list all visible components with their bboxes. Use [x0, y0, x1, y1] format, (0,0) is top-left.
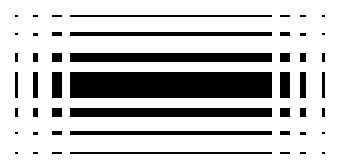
pattern-mark-r4-c1	[15, 72, 18, 98]
pattern-mark-r1-c2	[33, 15, 38, 17]
pattern-mark-r2-c7	[322, 33, 325, 35]
pattern-mark-r1-c3	[52, 15, 62, 17]
pattern-mark-r2-c1	[15, 33, 18, 35]
pattern-mark-r7-c3	[52, 152, 62, 154]
pattern-mark-r7-c4	[70, 152, 272, 154]
pattern-mark-r6-c5	[280, 131, 290, 135]
pattern-mark-r5-c2	[33, 108, 38, 117]
pattern-mark-r4-c5	[280, 72, 290, 98]
pattern-mark-r6-c3	[52, 131, 62, 135]
pattern-mark-r7-c6	[300, 152, 306, 154]
pattern-mark-r7-c1	[15, 152, 18, 154]
pattern-mark-r1-c7	[322, 15, 325, 17]
pattern-mark-r3-c3	[52, 53, 62, 62]
pattern-mark-r6-c1	[15, 132, 18, 134]
pattern-mark-r4-c4	[70, 72, 272, 98]
pattern-mark-r7-c2	[33, 152, 38, 154]
pattern-mark-r2-c5	[280, 32, 290, 36]
pattern-mark-r3-c4	[70, 53, 272, 62]
pattern-canvas	[0, 0, 349, 168]
pattern-mark-r2-c4	[70, 32, 272, 36]
pattern-mark-r3-c1	[15, 53, 18, 62]
pattern-mark-r6-c6	[300, 132, 306, 135]
pattern-mark-r7-c5	[280, 152, 290, 154]
pattern-mark-r1-c6	[300, 15, 306, 17]
pattern-mark-r4-c6	[300, 72, 306, 98]
pattern-mark-r1-c1	[15, 15, 18, 17]
pattern-mark-r5-c1	[15, 108, 18, 117]
pattern-mark-r5-c3	[52, 108, 62, 117]
pattern-mark-r4-c3	[52, 72, 62, 98]
pattern-mark-r5-c7	[322, 108, 325, 117]
pattern-mark-r5-c5	[280, 108, 290, 117]
pattern-mark-r5-c4	[70, 108, 272, 117]
pattern-mark-r1-c4	[70, 15, 272, 17]
pattern-mark-r2-c2	[33, 33, 38, 36]
pattern-mark-r3-c7	[322, 53, 325, 62]
pattern-mark-r3-c2	[33, 53, 38, 62]
pattern-mark-r4-c7	[322, 72, 325, 98]
pattern-mark-r1-c5	[280, 15, 290, 17]
pattern-mark-r2-c3	[52, 32, 62, 36]
pattern-mark-r2-c6	[300, 33, 306, 36]
pattern-mark-r3-c6	[300, 53, 306, 62]
pattern-mark-r6-c4	[70, 131, 272, 135]
pattern-mark-r7-c7	[322, 152, 325, 154]
pattern-mark-r6-c7	[322, 132, 325, 134]
pattern-mark-r3-c5	[280, 53, 290, 62]
pattern-mark-r5-c6	[300, 108, 306, 117]
pattern-mark-r4-c2	[33, 72, 38, 98]
pattern-mark-r6-c2	[33, 132, 38, 135]
